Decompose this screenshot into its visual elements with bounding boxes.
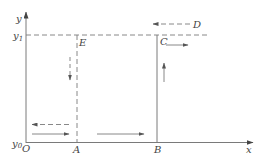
y1-label: y1 [12,30,23,43]
point-b-label: B [153,144,161,155]
origin-label: O [22,143,30,154]
point-e-label: E [78,37,87,48]
x-axis-label: x [246,144,252,155]
diagram-canvas: y y1 y0 O x A B C D E [0,0,263,164]
point-c-label: C [160,36,168,47]
point-d-label: D [192,19,201,30]
y0-label: y0 [11,138,23,150]
point-a-label: A [72,144,80,155]
y-axis-label: y [15,13,22,24]
